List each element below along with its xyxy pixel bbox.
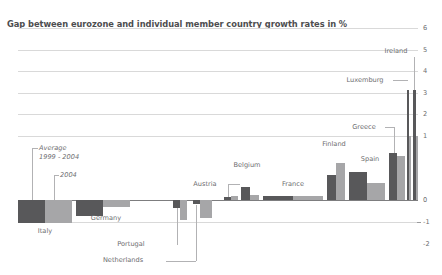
leader-2004-vertical (54, 175, 55, 200)
bar-greece-average (389, 153, 397, 200)
plot-area: 6 5 4 3 2 1 0 -1 -2 Italy Germany Portug… (18, 28, 418, 243)
bar-greece-2004 (397, 156, 405, 200)
leader-netherlands-vertical (196, 205, 197, 261)
bar-ireland-2004 (416, 136, 418, 201)
bar-france-average (263, 196, 293, 200)
callout-average-line2: 1999 - 2004 (39, 153, 79, 161)
label-austria: Austria (193, 180, 216, 188)
bar-germany-2004 (103, 200, 130, 207)
callout-average: Average 1999 - 2004 (39, 144, 79, 161)
ytick-0: 0 (423, 196, 427, 204)
ytick-6: 6 (423, 24, 427, 32)
bar-italy-2004 (45, 200, 72, 223)
leader-ireland-vertical (414, 57, 415, 90)
tickmark-minus1 (417, 222, 421, 223)
label-finland: Finland (322, 140, 346, 148)
label-germany: Germany (91, 214, 121, 222)
ytick-1: 1 (423, 132, 427, 140)
ytick-5: 5 (423, 46, 427, 54)
leader-greece-vertical (394, 127, 395, 153)
ytick-minus1: -1 (423, 218, 430, 226)
callout-average-line1: Average (39, 144, 66, 152)
bar-austria-average (224, 197, 231, 200)
bar-portugal-average (173, 200, 180, 208)
leader-austria-vertical (228, 184, 229, 197)
ytick-4: 4 (423, 67, 427, 75)
bar-austria-2004 (231, 196, 238, 200)
label-spain: Spain (361, 155, 379, 163)
chart-root: Gap between eurozone and individual memb… (0, 0, 442, 275)
bar-spain-average (349, 172, 367, 200)
bar-finland-2004 (336, 163, 345, 200)
leader-austria-horizontal (228, 184, 240, 185)
bar-netherlands-2004 (200, 200, 212, 218)
bar-group (18, 28, 418, 243)
leader-netherlands-horizontal (166, 261, 196, 262)
ytick-minus2: -2 (423, 240, 430, 248)
ytick-3: 3 (423, 89, 427, 97)
label-portugal: Portugal (117, 240, 144, 248)
callout-2004-line1: 2004 (60, 171, 77, 179)
bar-luxemburg-2004 (409, 136, 411, 201)
label-netherlands: Netherlands (103, 256, 143, 264)
ytick-2: 2 (423, 110, 427, 118)
callout-2004: 2004 (60, 171, 77, 180)
leader-portugal-vertical (177, 208, 178, 245)
bar-france-2004 (293, 196, 323, 200)
label-france: France (282, 180, 304, 188)
bar-spain-2004 (367, 183, 385, 200)
bar-belgium-average (241, 187, 250, 200)
label-belgium: Belgium (233, 161, 260, 169)
bar-portugal-2004 (180, 200, 187, 220)
label-luxemburg: Luxemburg (346, 76, 383, 84)
bar-netherlands-average (193, 200, 200, 204)
label-italy: Italy (38, 227, 52, 235)
bar-italy-average (18, 200, 45, 223)
label-greece: Greece (352, 123, 375, 131)
bar-belgium-2004 (250, 195, 259, 200)
label-ireland: Ireland (385, 47, 408, 55)
leader-luxemburg-horizontal (393, 80, 408, 81)
leader-average-vertical (32, 148, 33, 200)
bar-finland-average (327, 175, 336, 200)
